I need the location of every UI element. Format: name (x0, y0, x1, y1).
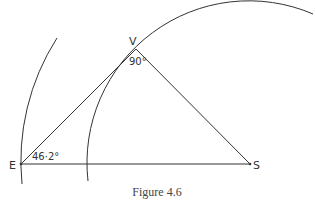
outer-orbit-arc (21, 38, 57, 184)
label-e: E (9, 159, 16, 172)
angle-label-e: 46·2° (32, 151, 59, 162)
figure-caption: Figure 4.6 (132, 185, 181, 199)
line-e-v (21, 49, 136, 164)
angle-label-v: 90° (129, 56, 147, 67)
diagram-figure: V E S 90° 46·2° Figure 4.6 (0, 0, 315, 206)
point-e (20, 163, 23, 166)
label-v: V (129, 35, 137, 48)
line-v-s (136, 49, 250, 164)
point-s (249, 163, 252, 166)
label-s: S (253, 159, 260, 172)
inner-orbit-arc (87, 1, 313, 181)
